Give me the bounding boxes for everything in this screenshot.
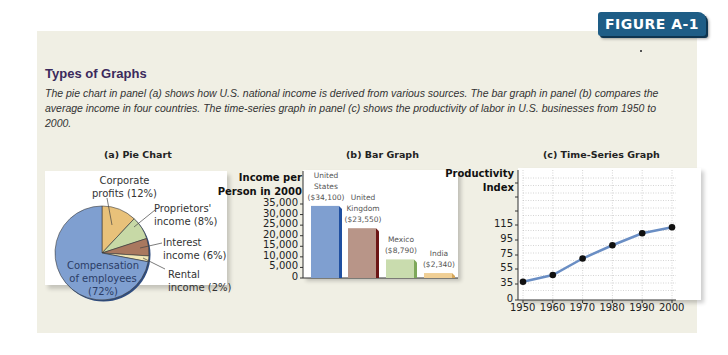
x-tick-label: 1990 xyxy=(629,302,654,313)
x-tick-label: 1980 xyxy=(599,302,624,313)
data-point xyxy=(520,278,527,285)
x-tick-label: 1950 xyxy=(510,302,535,313)
x-tick-label: 1960 xyxy=(540,302,565,313)
data-point xyxy=(609,242,616,249)
x-tick-label: 2000 xyxy=(659,302,684,313)
data-point xyxy=(669,224,676,231)
data-point xyxy=(579,255,586,262)
data-point xyxy=(550,272,557,279)
data-point xyxy=(639,230,646,237)
x-tick-label: 1970 xyxy=(570,302,595,313)
